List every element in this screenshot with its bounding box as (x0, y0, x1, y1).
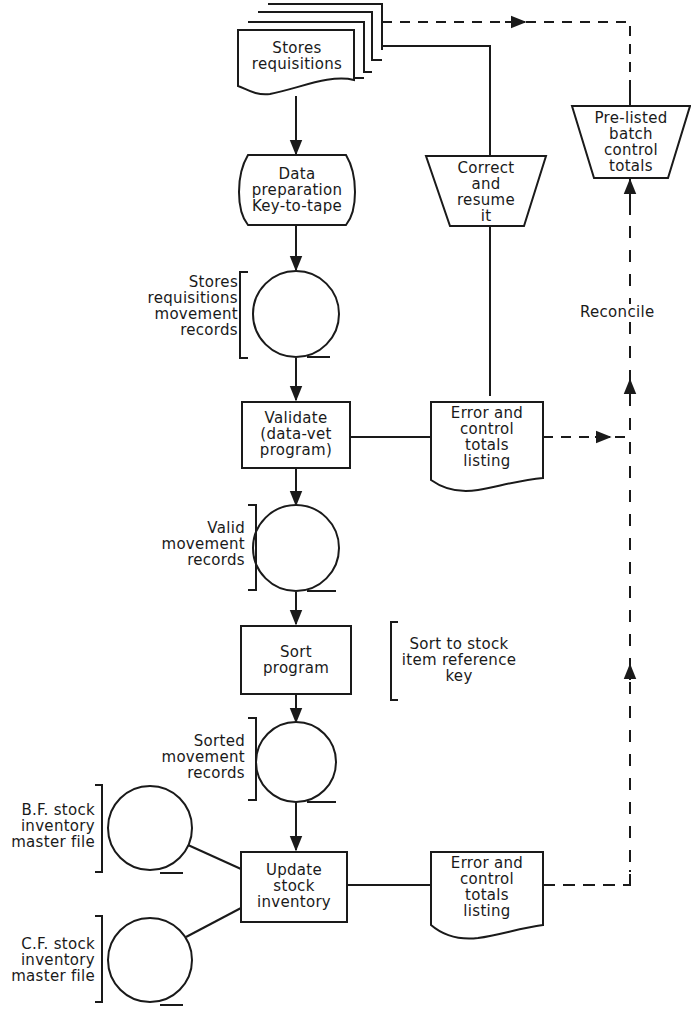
correct-resume-label: Correct and resume it (436, 160, 536, 224)
error-listing-1-label: Error and control totals listing (431, 405, 543, 469)
tape3-label: Sorted movement records (150, 733, 245, 781)
error-listing-2-label: Error and control totals listing (431, 855, 543, 919)
tape2-shape (253, 505, 339, 591)
validate-label: Validate (data-vet program) (242, 410, 350, 458)
cf-master-shape (108, 918, 192, 1002)
data-preparation-label: Data preparation Key-to-tape (240, 166, 354, 214)
tape1-label: Stores requisitions movement records (140, 274, 238, 338)
pre-listed-label: Pre-listed batch control totals (578, 110, 684, 174)
sort-label: Sort program (241, 644, 351, 676)
stores-requisitions-label: Stores requisitions (240, 40, 354, 72)
tape1-shape (253, 271, 339, 357)
cf-master-label: C.F. stock inventory master file (0, 936, 95, 984)
tape3-shape (256, 722, 336, 802)
tape2-label: Valid movement records (150, 520, 245, 568)
bf-master-shape (108, 786, 192, 870)
update-label: Update stock inventory (241, 862, 347, 910)
sort-note-label: Sort to stock item reference key (397, 636, 521, 684)
reconcile-label: Reconcile (580, 304, 690, 320)
return-line (382, 46, 490, 156)
bf-master-label: B.F. stock inventory master file (0, 802, 95, 850)
